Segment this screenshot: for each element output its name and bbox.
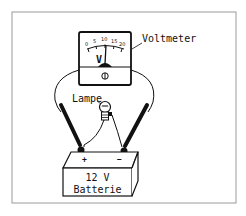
scale-tick-20: 20 [119,41,125,47]
lamp-label: Lampe [72,93,102,104]
plus-terminal-label: + [82,155,87,164]
scale-tick-10: 10 [101,36,107,42]
voltmeter-leader-line [132,43,142,49]
voltmeter: 0 5 10 15 20 V [79,32,131,85]
battery: + − 12 V Batterie [63,152,138,196]
lamp-wire-minus [112,115,122,147]
lamp [100,102,113,121]
lamp-socket [102,112,109,120]
battery-voltage-label: 12 V [85,172,109,183]
minus-terminal-label: − [117,155,122,164]
voltmeter-wire-left [55,70,79,112]
scale-tick-0: 0 [85,41,88,47]
scale-tick-15: 15 [111,38,117,44]
battery-name-label: Batterie [73,184,121,195]
lamp-wire-plus [84,120,104,147]
voltmeter-label: Voltmeter [142,33,196,44]
clip-left-handle [61,105,80,145]
scale-tick-5: 5 [93,38,96,44]
voltmeter-wire-right [131,70,154,112]
battery-top [63,152,138,168]
circuit-diagram: 0 5 10 15 20 V Voltmeter Lampe [0,0,246,216]
clip-right-handle [125,105,147,146]
voltmeter-unit: V [96,54,102,65]
